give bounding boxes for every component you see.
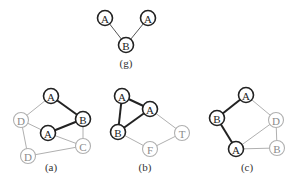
graph-b-node-a: A <box>143 102 158 117</box>
graph-c-nodes: ABDAB <box>210 88 285 157</box>
node-label: A <box>144 13 152 25</box>
graph-a-node-c: C <box>76 139 91 154</box>
graph-c-node-a: A <box>229 142 244 157</box>
graph-pattern-diagram: AABADBACDAABTFABDAB (g)(a)(b)(c) <box>0 0 296 178</box>
edges-layer <box>21 18 277 156</box>
graph-g-nodes: AAB <box>98 11 156 53</box>
node-label: A <box>232 144 240 156</box>
node-label: T <box>179 128 186 140</box>
node-label: B <box>79 114 86 126</box>
node-label: B <box>122 40 129 52</box>
graph-g-node-a: A <box>98 11 113 26</box>
graph-b-node-f: F <box>143 142 158 157</box>
graph-c-node-b: B <box>270 141 285 156</box>
graph-b-node-b: B <box>111 125 126 140</box>
node-label: B <box>213 113 220 125</box>
node-label: A <box>242 90 250 102</box>
graph-c-node-d: D <box>269 113 284 128</box>
graph-g-node-b: B <box>119 38 134 53</box>
graph-a-edge <box>28 146 83 156</box>
graph-a-node-a: A <box>44 89 59 104</box>
node-label: A <box>118 91 126 103</box>
node-label: D <box>17 115 25 127</box>
graph-a-node-d: D <box>14 113 29 128</box>
node-label: A <box>44 128 52 140</box>
graph-b-node-a: A <box>115 89 130 104</box>
graph-c-caption: (c) <box>241 161 254 174</box>
graph-a-node-d: D <box>21 149 36 164</box>
node-label: D <box>24 151 32 163</box>
node-label: A <box>146 104 154 116</box>
node-label: A <box>101 13 109 25</box>
graph-a-node-b: B <box>76 112 91 127</box>
node-label: A <box>47 91 55 103</box>
graph-b-nodes: AABTF <box>111 89 190 157</box>
graph-g-node-a: A <box>141 11 156 26</box>
graph-b-node-t: T <box>175 126 190 141</box>
graph-a-nodes: ADBACD <box>14 89 91 164</box>
node-label: D <box>272 115 280 127</box>
graph-g-caption: (g) <box>120 57 133 70</box>
node-label: F <box>147 144 153 156</box>
graph-a-node-a: A <box>41 126 56 141</box>
graph-b-caption: (b) <box>139 161 152 174</box>
nodes-layer: AABADBACDAABTFABDAB <box>14 11 285 164</box>
node-label: B <box>114 127 121 139</box>
node-label: C <box>79 141 86 153</box>
graph-c-node-b: B <box>210 111 225 126</box>
node-label: B <box>273 143 280 155</box>
graph-c-node-a: A <box>239 88 254 103</box>
graph-a-caption: (a) <box>45 161 58 174</box>
